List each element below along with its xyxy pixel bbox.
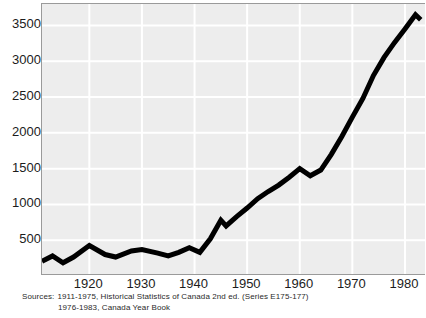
sources-text-2: 1976-1983, Canada Year Book	[58, 303, 170, 312]
sources-caption: Sources:1911-1975, Historical Statistics…	[22, 292, 422, 314]
x-tick-label-1970: 1970	[326, 277, 376, 290]
y-tick-label-2500: 2500	[1, 89, 41, 102]
x-tick-label-1930: 1930	[116, 277, 166, 290]
x-tick-label-1950: 1950	[221, 277, 271, 290]
sources-line-1: Sources:1911-1975, Historical Statistics…	[22, 292, 422, 303]
y-tick-label-1500: 1500	[1, 161, 41, 174]
sources-label: Sources:	[22, 292, 57, 301]
y-tick-label-1000: 1000	[1, 196, 41, 209]
sources-text-1: 1911-1975, Historical Statistics of Cana…	[57, 292, 308, 301]
y-tick-label-3000: 3000	[1, 53, 41, 66]
y-tick-label-500: 500	[1, 232, 41, 245]
sources-line-2: 1976-1983, Canada Year Book	[22, 303, 422, 314]
horizontal-gridlines	[42, 25, 425, 240]
x-tick-label-1960: 1960	[274, 277, 324, 290]
y-tick-label-2000: 2000	[1, 125, 41, 138]
data-series-line	[42, 15, 421, 263]
x-tick-label-1940: 1940	[169, 277, 219, 290]
plot-area	[41, 3, 425, 275]
vertical-gridlines	[89, 4, 405, 275]
x-tick-label-1980: 1980	[379, 277, 426, 290]
y-tick-label-3500: 3500	[1, 17, 41, 30]
plot-canvas	[42, 4, 425, 275]
x-tick-label-1920: 1920	[63, 277, 113, 290]
chart-figure: 500100015002000250030003500 192019301940…	[0, 0, 426, 318]
